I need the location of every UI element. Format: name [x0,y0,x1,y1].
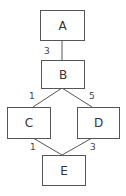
node-e: E [42,155,86,186]
node-a-label: A [58,19,66,33]
edge-c-e [33,138,62,155]
node-d: D [77,107,120,139]
edge-a-b-weight: 3 [44,47,50,56]
node-a: A [40,10,85,41]
edge-d-e-weight: 3 [90,143,96,152]
node-c: C [7,107,51,139]
node-d-label: D [94,116,103,130]
node-e-label: E [60,164,68,178]
edge-b-d-weight: 5 [89,92,95,101]
edge-b-c [33,88,62,107]
edge-c-e-weight: 1 [30,143,36,152]
node-c-label: C [25,116,33,130]
edge-d-e [62,138,92,155]
node-b: B [41,60,85,89]
edge-b-c-weight: 1 [29,92,35,101]
edge-b-d [62,88,92,107]
node-b-label: B [59,68,67,82]
